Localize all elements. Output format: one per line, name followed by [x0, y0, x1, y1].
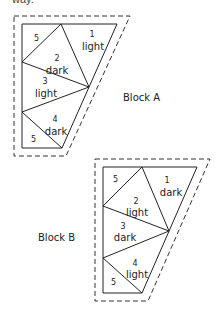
block-b-piece-1-shade: dark: [160, 187, 183, 198]
block-b-piece-1-num: 1: [164, 176, 169, 185]
block-a-piece-1-shade: light: [82, 41, 104, 52]
block-b-label: Block B: [38, 232, 75, 243]
pattern-diagram: 5 1 light 2 dark 3 light 4 dark 5 Block …: [0, 0, 222, 319]
block-a-piece-2-shade: dark: [46, 65, 69, 76]
block-a-piece-3-num: 3: [42, 77, 47, 86]
block-b-piece-2-num: 2: [133, 197, 138, 206]
block-a-piece-1-num: 1: [89, 30, 94, 39]
block-a-piece-4-num: 4: [52, 115, 57, 124]
block-a-label: Block A: [123, 92, 160, 103]
block-a-piece-5-top-num: 5: [34, 34, 39, 43]
block-b: 5 1 dark 2 light 3 dark 4 light 5 Block …: [38, 159, 210, 301]
block-a-piece-3-shade: light: [35, 88, 57, 99]
block-b-piece-4-num: 4: [132, 259, 137, 268]
block-a-piece-5-bottom-num: 5: [31, 135, 36, 144]
block-b-piece-5-top-num: 5: [113, 175, 118, 184]
block-a-piece-2-num: 2: [54, 54, 59, 63]
block-a: 5 1 light 2 dark 3 light 4 dark 5 Block …: [14, 16, 160, 156]
block-b-piece-4-shade: light: [126, 269, 148, 280]
block-b-piece-5-bottom-num: 5: [111, 278, 116, 287]
block-b-piece-3-num: 3: [120, 222, 125, 231]
block-b-piece-3-shade: dark: [114, 232, 137, 243]
block-b-piece-2-shade: light: [126, 207, 148, 218]
block-a-piece-4-shade: dark: [45, 126, 68, 137]
